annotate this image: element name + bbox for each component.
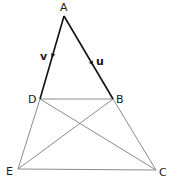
point-label-e: E: [6, 165, 13, 178]
vector-diagram: A D B E C v u: [0, 0, 176, 190]
point-label-d: D: [28, 93, 36, 106]
point-label-c: C: [159, 166, 167, 179]
vector-u-line: [64, 16, 113, 99]
point-label-a: A: [60, 1, 68, 14]
vector-label-u: u: [96, 55, 104, 68]
vector-label-v: v: [40, 50, 48, 63]
segment-de: [18, 99, 40, 169]
segment-ec: [18, 169, 156, 170]
point-label-b: B: [116, 93, 124, 106]
segment-bc: [113, 99, 156, 170]
segment-be: [18, 99, 113, 169]
